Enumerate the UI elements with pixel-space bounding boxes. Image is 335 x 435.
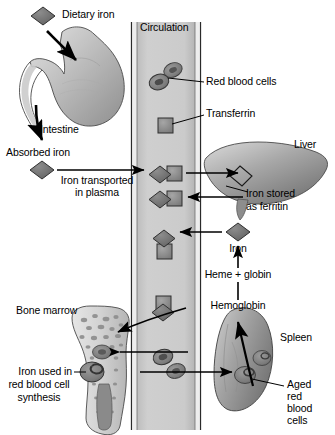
label-liver: Liver — [294, 139, 316, 151]
label-iron-used-1: Iron used in — [0, 366, 72, 378]
transferrin-free — [158, 118, 173, 133]
label-hemoglobin: Hemoglobin — [202, 300, 274, 312]
label-spleen: Spleen — [280, 332, 312, 344]
label-transferrin: Transferrin — [206, 108, 255, 120]
label-iron-transported-2: in plasma — [58, 187, 136, 199]
marrow-rbc-1 — [93, 345, 112, 359]
iron-from-heme-diamond — [226, 223, 250, 241]
label-aged-rbc-2: red — [287, 391, 302, 403]
intestine-organ — [19, 62, 42, 128]
label-heme-globin: Heme + globin — [202, 269, 274, 281]
label-bone-marrow: Bone marrow — [16, 305, 77, 317]
label-iron-stored-2: as ferritin — [246, 201, 288, 213]
label-aged-rbc-1: Aged — [287, 379, 311, 391]
spleen-organ — [214, 308, 273, 411]
stomach-organ — [30, 27, 124, 126]
label-iron-transported-1: Iron transported — [58, 175, 136, 187]
bone-marrow-organ — [72, 306, 129, 435]
label-iron-stored-1: Iron stored — [246, 188, 295, 200]
label-red-blood-cells: Red blood cells — [206, 76, 276, 88]
label-intestine: Intestine — [40, 124, 79, 136]
label-iron: Iron — [218, 243, 258, 255]
label-iron-used-3: synthesis — [0, 392, 78, 404]
label-circulation: Circulation — [140, 22, 189, 34]
label-aged-rbc-4: cells — [287, 415, 308, 427]
iron-dietary-diamond — [31, 7, 55, 25]
label-absorbed-iron: Absorbed iron — [6, 147, 70, 159]
label-dietary-iron: Dietary iron — [62, 9, 115, 21]
spleen-rbc-1 — [253, 351, 271, 366]
label-aged-rbc-3: blood — [287, 403, 312, 415]
iron-absorbed-diamond — [30, 161, 54, 179]
label-iron-used-2: red blood cell — [0, 379, 78, 391]
iron-metabolism-diagram: Dietary iron Intestine Absorbed iron Iro… — [0, 0, 335, 435]
